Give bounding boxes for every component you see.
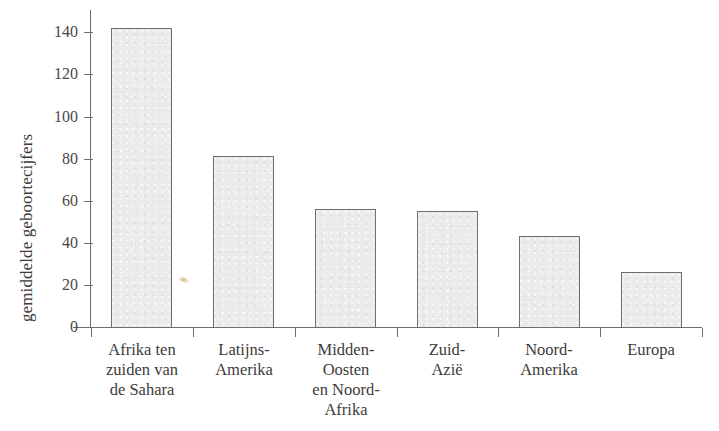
bar — [519, 236, 580, 327]
y-tick-mark — [84, 32, 93, 33]
y-tick-label-text: 40 — [40, 235, 78, 251]
x-category-label: Midden- Oosten en Noord- Afrika — [289, 340, 403, 420]
scan-artifact-speck — [179, 276, 190, 284]
y-tick-label: 20 — [34, 277, 78, 293]
x-category-label: Afrika ten zuiden van de Sahara — [85, 340, 199, 400]
y-tick-label: 100 — [34, 109, 78, 125]
y-tick-mark — [84, 201, 93, 202]
y-tick-label: 40 — [34, 235, 78, 251]
y-tick-label-text: 120 — [40, 66, 78, 82]
y-axis-line — [90, 10, 91, 328]
x-tick-mark — [600, 328, 601, 337]
bar-chart: gemiddelde geboortecijfers 0204060801001… — [0, 0, 719, 431]
bar — [621, 272, 682, 327]
y-tick-label-text: 140 — [40, 24, 78, 40]
y-tick-label-text: 0 — [40, 319, 78, 335]
y-tick-mark — [84, 243, 93, 244]
y-tick-label: 60 — [34, 193, 78, 209]
x-category-label: Noord- Amerika — [492, 340, 606, 380]
x-tick-mark — [702, 328, 703, 337]
x-category-label: Zuid- Azië — [390, 340, 504, 380]
y-tick-mark — [84, 74, 93, 75]
x-tick-mark — [498, 328, 499, 337]
x-category-label: Latijns- Amerika — [187, 340, 301, 380]
y-tick-mark — [84, 159, 93, 160]
y-tick-label-text: 80 — [40, 151, 78, 167]
y-tick-mark — [84, 117, 93, 118]
y-tick-label-text: 100 — [40, 109, 78, 125]
y-tick-label: 80 — [34, 151, 78, 167]
x-tick-mark — [193, 328, 194, 337]
y-tick-label-text: 60 — [40, 193, 78, 209]
x-tick-mark — [91, 328, 92, 337]
x-tick-mark — [397, 328, 398, 337]
y-tick-mark — [84, 285, 93, 286]
bar — [111, 28, 172, 327]
x-tick-mark — [295, 328, 296, 337]
y-tick-label: 120 — [34, 66, 78, 82]
bar — [213, 156, 274, 327]
y-tick-label-text: 20 — [40, 277, 78, 293]
y-tick-label: 0 — [34, 319, 78, 335]
x-axis-line — [73, 327, 702, 328]
y-tick-label: 140 — [34, 24, 78, 40]
bar — [315, 209, 376, 327]
x-category-label: Europa — [594, 340, 708, 360]
bar — [417, 211, 478, 327]
